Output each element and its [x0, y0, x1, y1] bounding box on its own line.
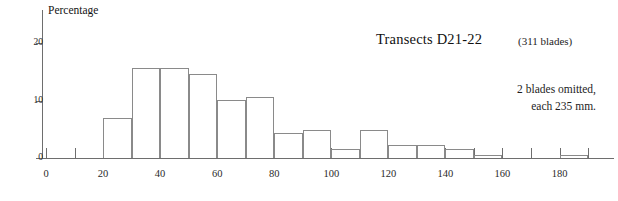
histogram-bar [417, 145, 446, 158]
histogram-bar [560, 155, 589, 158]
histogram-bar [217, 100, 246, 158]
x-tick-mark-minor [588, 148, 589, 158]
x-tick-label: 80 [269, 168, 280, 179]
chart-title: Transects D21-22 [376, 31, 482, 48]
histogram-bar [388, 145, 417, 158]
histogram-bar [189, 74, 218, 158]
annotation-line-1: 2 blades omitted, [517, 82, 596, 96]
x-tick-label: 0 [43, 168, 48, 179]
x-tick-label: 140 [438, 168, 454, 179]
y-axis-title: Percentage [48, 4, 98, 16]
histogram-bar [103, 118, 132, 158]
x-tick-label: 100 [323, 168, 339, 179]
y-axis-line [42, 10, 43, 159]
y-tick-label: 0 [17, 153, 43, 163]
x-tick-label: 60 [212, 168, 223, 179]
y-tick-label: 10 [17, 96, 43, 106]
x-axis-line [42, 158, 614, 159]
histogram-bar [360, 130, 389, 158]
x-tick-label: 40 [155, 168, 166, 179]
x-tick-mark-minor [75, 148, 76, 158]
x-tick-mark-minor [531, 148, 532, 158]
x-tick-label: 180 [552, 168, 568, 179]
histogram-bar [445, 149, 474, 158]
y-tick-label: 20 [17, 38, 43, 48]
histogram-bar [274, 133, 303, 158]
histogram-chart: Percentage 01020 02040608010012014016018… [0, 0, 618, 201]
histogram-bar [246, 97, 275, 158]
x-tick-label: 20 [98, 168, 109, 179]
histogram-bar [331, 149, 360, 158]
x-tick-label: 120 [380, 168, 396, 179]
histogram-bar [160, 68, 189, 158]
histogram-bar [303, 130, 332, 158]
x-tick-mark-major [46, 148, 47, 158]
histogram-bar [474, 155, 503, 158]
x-tick-mark-major [502, 148, 503, 158]
histogram-bar [132, 68, 161, 158]
x-tick-label: 160 [495, 168, 511, 179]
annotation-line-2: each 235 mm. [531, 99, 596, 113]
chart-subtitle: (311 blades) [518, 35, 572, 48]
